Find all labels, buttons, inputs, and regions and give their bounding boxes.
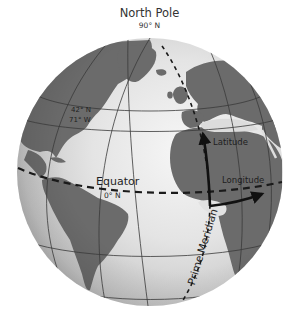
globe-shading <box>17 38 283 306</box>
longitude-arrow-label: Longitude <box>222 176 264 185</box>
land-madagascar <box>270 234 279 248</box>
globe-diagram <box>0 0 299 321</box>
location-latitude-label: 42° N <box>71 107 91 114</box>
latitude-arrow-label: Latitude <box>213 138 248 147</box>
north-pole-latitude: 90° N <box>0 22 299 30</box>
equator-latitude-label: 0° N <box>104 192 121 200</box>
north-pole-label: North Pole <box>0 8 299 20</box>
equator-label: Equator <box>96 176 139 187</box>
globe-graphic <box>0 0 299 321</box>
location-longitude-label: 71° W <box>69 117 91 124</box>
